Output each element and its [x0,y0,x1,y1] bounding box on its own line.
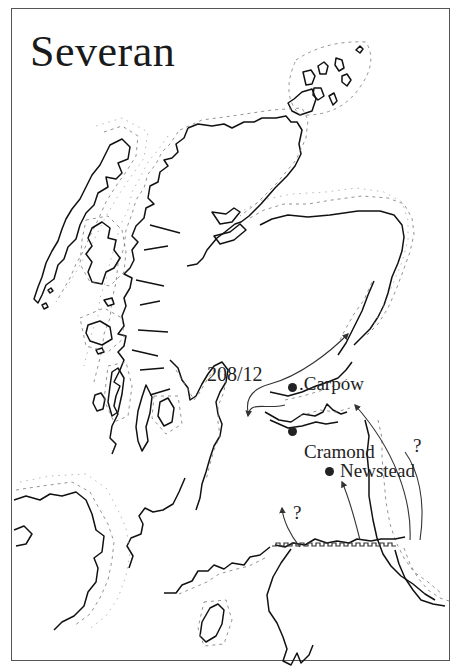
newstead-marker-icon [325,467,334,476]
campaign-date-label: 208/12 [207,364,263,384]
mainland-coastline [180,108,414,345]
southern-coast [14,474,452,665]
map-title: Severan [30,30,175,74]
place-label-cramond: Cramond [304,442,375,461]
uncertain-route-marker: ? [293,503,301,522]
cramond-marker-icon [288,427,297,436]
uncertain-route-marker: ? [413,436,421,455]
place-label-newstead: Newstead [340,461,415,480]
west-highland-coast [80,128,228,510]
place-label-carpow: .Carpow [299,374,364,393]
scotland-map [0,0,461,672]
carpow-marker-icon [288,383,297,392]
orkney-islands [288,42,371,115]
